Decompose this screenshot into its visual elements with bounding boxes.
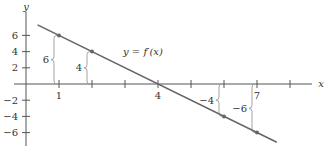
annotation-label: 6 (43, 54, 49, 65)
data-point (255, 131, 259, 135)
data-point (90, 50, 94, 54)
y-tick-label: −6 (3, 127, 18, 138)
annotation-label: 4 (76, 62, 82, 73)
curve-label: y = f′(x) (122, 46, 163, 57)
annotation-label: −6 (232, 103, 247, 114)
y-axis-label: y (22, 1, 29, 12)
y-tick-label: 6 (12, 30, 18, 41)
y-tick-label: −2 (3, 95, 18, 106)
x-tick-label: 7 (254, 90, 260, 101)
y-tick-label: 2 (12, 62, 18, 73)
y-tick-label: −4 (3, 111, 18, 122)
data-point (222, 114, 226, 118)
x-axis-label: x (318, 78, 324, 89)
annotation-brace (84, 52, 90, 84)
x-tick-label: 1 (56, 90, 62, 101)
annotation-brace (216, 84, 222, 116)
annotation-brace (51, 35, 57, 84)
data-point (57, 33, 61, 37)
y-tick-label: 4 (12, 46, 18, 57)
annotation-label: −4 (199, 95, 214, 106)
derivative-line-chart: xy 147642−2−4−6 64−4−6 y = f′(x) (0, 0, 329, 152)
x-tick-label: 4 (155, 90, 161, 101)
